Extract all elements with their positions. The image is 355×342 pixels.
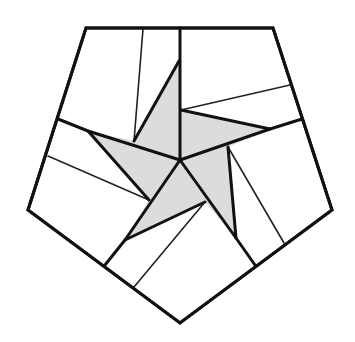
pentagon-star-dissection-diagram (0, 0, 355, 342)
